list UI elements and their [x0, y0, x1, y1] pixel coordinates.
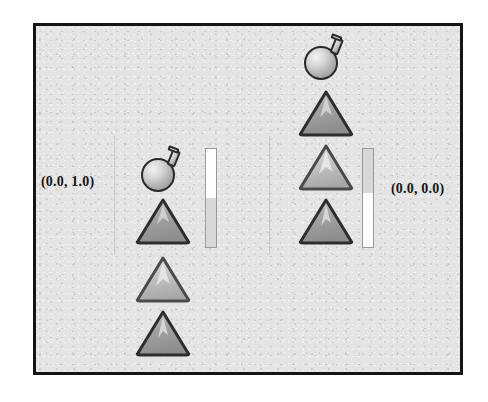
triangle-icon-right-2[interactable] — [297, 142, 355, 192]
gauge-fill-right — [363, 193, 373, 247]
flask-cap — [330, 33, 342, 42]
triangle-icon-right-3[interactable] — [297, 196, 355, 246]
flask-icon-right[interactable] — [302, 36, 348, 82]
scene-root: (0.0, 1.0) — [0, 0, 488, 402]
column-right: (0.0, 0.0) — [36, 26, 460, 372]
gauge-empty-right — [363, 149, 373, 193]
triangle-icon-right-1[interactable] — [297, 88, 355, 138]
scene-canvas: (0.0, 1.0) — [33, 23, 463, 375]
coord-label-right: (0.0, 0.0) — [391, 181, 444, 197]
gauge-bar-right[interactable] — [362, 148, 374, 248]
